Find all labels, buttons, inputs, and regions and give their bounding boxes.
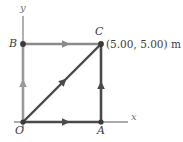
segment-O-B-arrowhead — [19, 79, 27, 87]
vertex-label-B: B — [9, 38, 17, 49]
vertex-label-O: O — [15, 125, 24, 136]
vertex-dot-C — [98, 41, 104, 47]
vertex-label-A: A — [97, 125, 105, 136]
coordinate-annotation: (5.00, 5.00) m — [106, 39, 181, 50]
vertex-dot-B — [20, 41, 26, 47]
diagram-canvas — [0, 0, 183, 142]
y-axis-label: y — [20, 3, 26, 13]
segment-B-C-arrowhead — [62, 40, 70, 48]
vector-path-diagram: y x B C O A (5.00, 5.00) m — [0, 0, 183, 142]
segment-O-A-arrowhead — [62, 118, 70, 126]
x-axis-label: x — [131, 112, 137, 122]
vertex-label-C: C — [95, 26, 103, 37]
segment-A-C-arrowhead — [97, 81, 105, 89]
